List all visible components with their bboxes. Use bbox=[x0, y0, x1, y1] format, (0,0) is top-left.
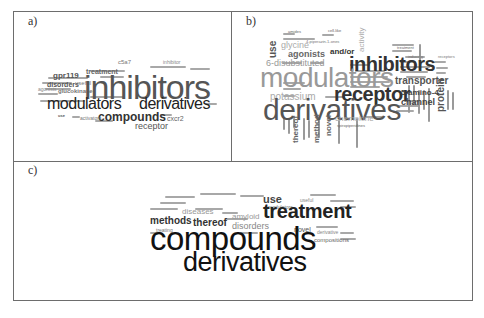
word-derivative: derivative bbox=[317, 230, 338, 235]
word-inhibitor: inhibitor bbox=[163, 60, 181, 65]
word-spiropiperidines: spiropiperidines bbox=[337, 124, 365, 128]
word-chemokine: chemokine bbox=[335, 115, 374, 123]
word-c5a: c5a7 bbox=[118, 59, 131, 65]
word-receptors: receptors bbox=[438, 55, 455, 59]
word-method: method bbox=[313, 114, 321, 143]
word-activity: activity bbox=[358, 28, 366, 52]
word-derivatives: derivatives bbox=[183, 249, 307, 276]
word-agonists: agonists bbox=[38, 87, 57, 92]
word-piperazin: 4-piperazin-1-ones bbox=[306, 40, 339, 44]
word-use: use bbox=[58, 114, 65, 118]
panel-a-label: a) bbox=[28, 14, 37, 29]
panel-b-label: b) bbox=[246, 14, 256, 29]
word-treatment: treatment bbox=[263, 201, 351, 221]
word-cxcr2: cxcr2 bbox=[167, 115, 184, 122]
panel-divider-vertical bbox=[231, 11, 232, 162]
word-activators: activators bbox=[80, 116, 101, 121]
word-thereof: thereof bbox=[292, 116, 300, 143]
word-channel: channel bbox=[401, 98, 435, 107]
word-gpr119: gpr119 bbox=[53, 72, 79, 80]
word-5-amino-4: 5-amino-4 bbox=[401, 89, 439, 97]
word-amides: amides bbox=[288, 30, 301, 34]
panel-c-label: c) bbox=[28, 163, 37, 178]
panel-divider-horizontal bbox=[13, 161, 473, 162]
word-compositions: compositions bbox=[314, 237, 349, 243]
word-treatment: treatment bbox=[397, 46, 414, 50]
word-cell-like: cell-like bbox=[328, 29, 341, 33]
word-novel: novel bbox=[325, 115, 333, 136]
word-receptor: receptor bbox=[135, 122, 168, 131]
word-use: use bbox=[268, 41, 278, 58]
